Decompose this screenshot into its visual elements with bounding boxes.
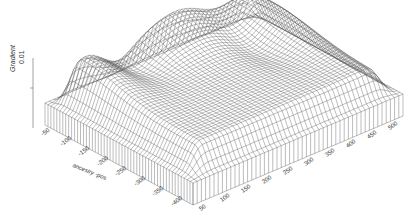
surface-wireframe	[0, 0, 414, 220]
z-tick-label: 0.01	[18, 50, 25, 64]
z-axis-label: Gradient	[9, 45, 16, 72]
surface-mesh	[45, 0, 403, 183]
surface-plot	[0, 0, 414, 220]
